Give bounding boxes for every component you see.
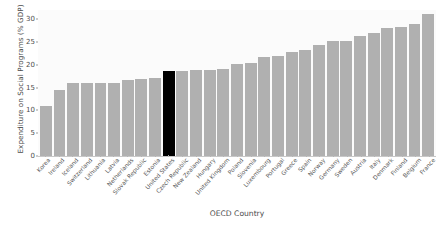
y-axis-tick-label: 10 [26, 106, 35, 114]
x-axis-tick-mark [72, 155, 73, 157]
x-axis-tick-mark [168, 155, 169, 157]
bar [108, 83, 120, 156]
bar-chart-figure: Expenditure on Social Programs (% GDP) 0… [0, 0, 440, 234]
bar [135, 79, 147, 156]
bar [54, 90, 66, 156]
y-axis-tick-labels: 051015202530 [20, 0, 38, 234]
y-axis-tick-label: 25 [26, 38, 35, 46]
bar [381, 28, 393, 156]
bar [409, 24, 421, 156]
bar [81, 83, 93, 156]
y-axis-tick-label: 15 [26, 84, 35, 92]
x-axis-tick-mark [415, 155, 416, 157]
bar [327, 41, 339, 156]
x-axis-tick-mark [127, 155, 128, 157]
x-axis-tick-mark [237, 155, 238, 157]
y-axis-tick-label: 20 [26, 61, 35, 69]
bar [272, 56, 284, 156]
bar [204, 70, 216, 156]
x-axis-tick-mark [223, 155, 224, 157]
bar [258, 57, 270, 156]
x-axis-tick-mark [86, 155, 87, 157]
bar [245, 63, 257, 156]
bar [340, 41, 352, 156]
x-axis-tick-mark [374, 155, 375, 157]
bar [95, 83, 107, 156]
bar [286, 52, 298, 156]
bar [354, 36, 366, 156]
bar [422, 14, 434, 156]
bar [190, 70, 202, 156]
bar [231, 64, 243, 156]
bar [395, 27, 407, 156]
bar [176, 71, 188, 156]
x-axis-tick-mark [361, 155, 362, 157]
x-axis-tick-mark [182, 155, 183, 157]
y-axis-tick-label: 30 [26, 15, 35, 23]
x-axis-tick-mark [429, 155, 430, 157]
plot-area [38, 10, 436, 156]
x-axis-tick-mark [264, 155, 265, 157]
bar [368, 33, 380, 156]
x-axis-tick-mark [113, 155, 114, 157]
x-axis-tick-mark [278, 155, 279, 157]
bar [122, 80, 134, 156]
x-axis-tick-mark [333, 155, 334, 157]
bar [40, 106, 52, 156]
bar-series [38, 10, 436, 156]
y-axis-tick-label: 5 [31, 129, 35, 137]
x-axis-tick-mark [319, 155, 320, 157]
bar [67, 83, 79, 156]
x-axis-title: OECD Country [38, 209, 436, 218]
bar [163, 71, 175, 156]
x-axis-tick-labels: KoreaIrelandIcelandSwitzerlandLithuaniaL… [38, 157, 436, 207]
bar [149, 78, 161, 156]
bar [217, 69, 229, 156]
bar [313, 45, 325, 156]
y-axis-tick-label: 0 [31, 152, 35, 160]
bar [299, 50, 311, 156]
